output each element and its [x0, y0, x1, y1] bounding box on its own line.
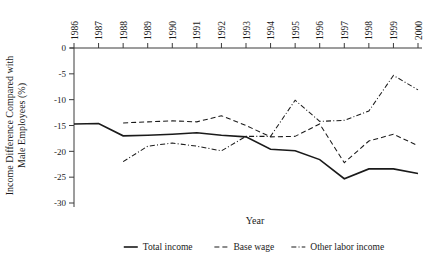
y-axis-tick-label: -25: [54, 172, 66, 182]
y-axis-tick-label: 0: [62, 43, 67, 53]
y-axis-tick-label: -10: [54, 95, 66, 105]
x-axis-tick-label: 1990: [168, 21, 178, 40]
y-axis-title-line-2: Male Employees (%): [16, 83, 28, 168]
x-axis-tick-label: 1991: [192, 21, 202, 40]
line-chart: 1986198719881989199019911992199319941995…: [0, 0, 439, 269]
x-axis-tick-label: 1995: [291, 21, 301, 40]
y-axis-tick-label: -15: [54, 121, 66, 131]
x-axis-tick-label: 2000: [414, 21, 424, 40]
y-axis-tick-label: -5: [59, 69, 67, 79]
x-axis-tick-label: 1988: [119, 21, 129, 40]
y-axis-tick-label: -30: [54, 198, 66, 208]
series-line-base-wage: [123, 116, 418, 163]
legend-label-base-wage: Base wage: [233, 242, 274, 252]
legend-label-total-income: Total income: [143, 242, 193, 252]
x-axis-tick-label: 1996: [315, 21, 325, 40]
legend-label-other-labor-income: Other labor income: [310, 242, 384, 252]
x-axis-tick-label: 1993: [242, 21, 252, 40]
x-axis-title: Year: [246, 215, 265, 226]
y-axis-title-line-1: Income Difference Compared with: [4, 56, 15, 195]
x-axis-tick-label: 1987: [94, 21, 104, 40]
x-axis-tick-label: 1989: [143, 21, 153, 40]
chart-container: 1986198719881989199019911992199319941995…: [0, 0, 439, 269]
series-line-total-income: [74, 123, 418, 178]
x-axis-tick-label: 1992: [217, 21, 227, 40]
x-axis-tick-label: 1986: [70, 21, 80, 40]
x-axis-tick-label: 1994: [266, 21, 276, 40]
y-axis-tick-label: -20: [54, 147, 66, 157]
x-axis-tick-label: 1997: [340, 21, 350, 40]
x-axis-tick-label: 1998: [364, 21, 374, 40]
x-axis-tick-label: 1999: [389, 21, 399, 40]
